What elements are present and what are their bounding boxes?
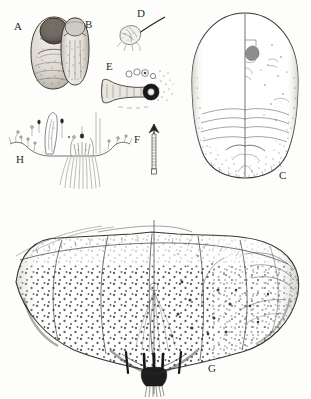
figure-f-gland-spine: [144, 122, 164, 178]
figure-d-label: D: [137, 8, 145, 19]
figure-d-antenna: [112, 16, 168, 56]
illustration-plate: A: [0, 0, 311, 399]
figure-b-label: B: [85, 19, 93, 30]
figure-h-pygidial-margin: [8, 108, 134, 190]
figure-e-label: E: [106, 61, 113, 72]
figure-c-label: C: [279, 170, 287, 181]
figure-h-drawing: [8, 108, 134, 190]
figure-d-drawing: [112, 16, 168, 56]
figure-f-label: F: [134, 134, 140, 145]
figure-h-label: H: [16, 154, 24, 165]
figure-c-adult-female-body: [186, 10, 304, 182]
figure-g-pygidium: [2, 194, 309, 397]
figure-f-drawing: [144, 122, 164, 178]
figure-g-drawing: [2, 194, 309, 397]
figure-c-drawing: [186, 10, 304, 182]
figure-a-label: A: [14, 21, 22, 32]
figure-g-label: G: [208, 363, 216, 374]
